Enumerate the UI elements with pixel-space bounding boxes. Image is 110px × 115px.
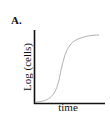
y-axis-label: Log (cells): [21, 43, 33, 91]
x-axis-label: time: [58, 101, 78, 113]
growth-chart: [0, 0, 110, 115]
growth-curve: [36, 35, 99, 102]
